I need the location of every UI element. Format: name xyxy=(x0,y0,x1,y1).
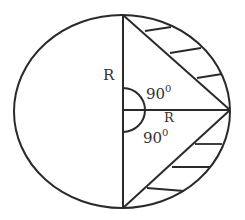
angle-label-lower: 900 xyxy=(143,127,168,147)
angle-label-upper: 900 xyxy=(146,83,171,103)
geometry-diagram: R R 900 900 xyxy=(0,0,245,220)
radius-label-vertical: R xyxy=(103,66,115,84)
radius-label-horizontal: R xyxy=(164,110,175,125)
